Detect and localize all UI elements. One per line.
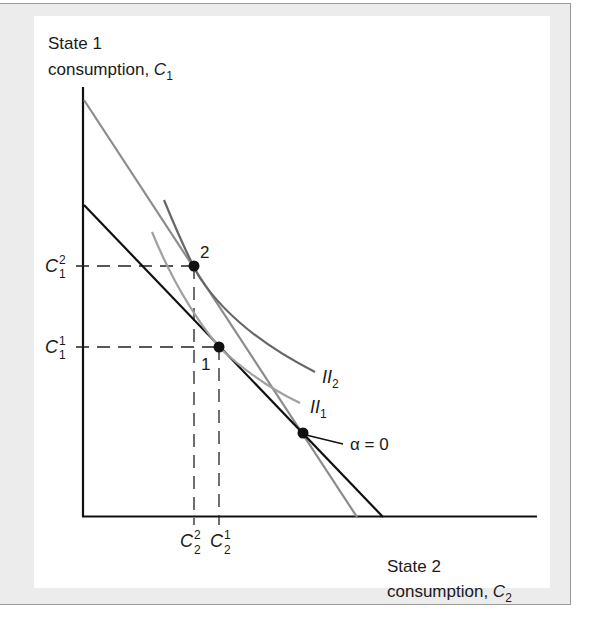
svg-text:2: 2 [59,253,66,267]
y-tick-c1-1: C 1 1 [45,334,66,362]
ii1-label: II1 [310,397,327,421]
alpha-zero-label: α = 0 [350,435,389,454]
svg-text:1: 1 [59,334,66,348]
state-contingent-consumption-diagram: State 1 consumption, C1 2 1 α = 0 II2 II… [0,0,591,620]
ii2-label: II2 [322,367,339,391]
point-alpha-zero [298,428,309,439]
svg-text:2: 2 [194,528,201,542]
x-axis-label-line1: State 2 [387,557,441,576]
svg-text:1: 1 [59,267,66,281]
svg-text:C: C [45,337,59,357]
point-1-label: 1 [201,355,210,374]
dashed-guides [76,266,219,525]
svg-text:1: 1 [224,528,231,542]
x-tick-c2-2: C 2 2 [180,528,201,557]
y-axis-label-line2: consumption, C1 [48,60,173,83]
svg-text:C: C [180,531,194,551]
x-tick-c2-1: C 1 2 [210,528,231,557]
point-1 [214,342,225,353]
svg-text:1: 1 [59,348,66,362]
x-axis-label-line2: consumption, C2 [387,582,512,605]
svg-text:2: 2 [224,543,231,557]
indifference-curve-ii2 [164,200,315,372]
point-2-label: 2 [200,243,209,262]
budget-line-gray [84,100,357,517]
point-2 [189,261,200,272]
svg-text:C: C [210,531,224,551]
y-tick-c1-2: C 2 1 [45,253,66,281]
svg-text:2: 2 [194,543,201,557]
y-axis-label-line1: State 1 [48,34,102,53]
svg-text:C: C [45,256,59,276]
